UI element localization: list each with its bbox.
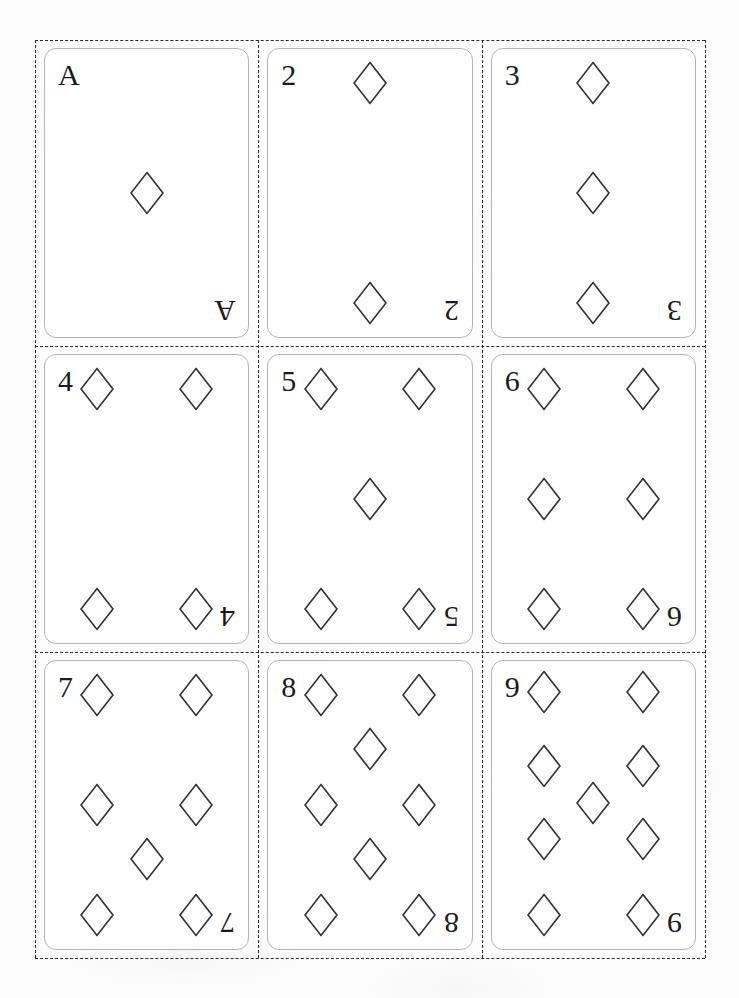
diamond-icon bbox=[402, 673, 436, 716]
diamond-icon bbox=[626, 818, 660, 861]
diamond-icon bbox=[80, 367, 114, 410]
diamond-icon bbox=[179, 784, 213, 827]
card-sheet-page: AA2233445566778899 bbox=[0, 0, 739, 998]
diamond-icon bbox=[179, 894, 213, 937]
playing-card-2-of-diamonds[interactable]: 22 bbox=[267, 48, 472, 338]
diamond-icon bbox=[80, 588, 114, 631]
playing-card-5-of-diamonds[interactable]: 55 bbox=[267, 354, 472, 644]
card-index-bottom-right: 6 bbox=[667, 602, 682, 632]
pip-field bbox=[516, 71, 671, 316]
pip-field bbox=[293, 377, 448, 622]
diamond-icon bbox=[626, 894, 660, 937]
diamond-icon bbox=[576, 172, 610, 215]
diamond-icon bbox=[353, 837, 387, 880]
card-cell: 22 bbox=[258, 40, 481, 346]
diamond-icon bbox=[626, 478, 660, 521]
card-cell: 55 bbox=[258, 346, 481, 652]
pip-field bbox=[516, 683, 671, 928]
diamond-icon bbox=[626, 588, 660, 631]
diamond-icon bbox=[527, 818, 561, 861]
diamond-icon bbox=[80, 673, 114, 716]
diamond-icon bbox=[179, 588, 213, 631]
playing-card-6-of-diamonds[interactable]: 66 bbox=[491, 354, 696, 644]
pip-field bbox=[293, 683, 448, 928]
diamond-icon bbox=[353, 478, 387, 521]
pip-field bbox=[69, 377, 224, 622]
diamond-icon bbox=[304, 588, 338, 631]
diamond-icon bbox=[353, 282, 387, 325]
card-index-bottom-right: 2 bbox=[444, 296, 459, 326]
card-index-bottom-right: 8 bbox=[444, 908, 459, 938]
diamond-icon bbox=[527, 744, 561, 787]
card-cell: 66 bbox=[482, 346, 705, 652]
pip-field bbox=[69, 683, 224, 928]
card-cell: 88 bbox=[258, 652, 481, 958]
diamond-icon bbox=[130, 837, 164, 880]
card-index-bottom-right: A bbox=[214, 296, 236, 326]
diamond-icon bbox=[527, 588, 561, 631]
diamond-icon bbox=[353, 61, 387, 104]
diamond-icon bbox=[527, 367, 561, 410]
pip-field bbox=[293, 71, 448, 316]
diamond-icon bbox=[576, 781, 610, 824]
card-index-bottom-right: 4 bbox=[220, 602, 235, 632]
playing-card-4-of-diamonds[interactable]: 44 bbox=[44, 354, 249, 644]
diamond-icon bbox=[576, 61, 610, 104]
diamond-icon bbox=[304, 673, 338, 716]
playing-card-7-of-diamonds[interactable]: 77 bbox=[44, 660, 249, 950]
diamond-icon bbox=[179, 673, 213, 716]
diamond-icon bbox=[626, 744, 660, 787]
cut-line-vertical-right bbox=[705, 40, 706, 958]
diamond-icon bbox=[527, 671, 561, 714]
diamond-icon bbox=[130, 172, 164, 215]
diamond-icon bbox=[80, 894, 114, 937]
diamond-icon bbox=[576, 282, 610, 325]
diamond-icon bbox=[402, 894, 436, 937]
card-grid: AA2233445566778899 bbox=[35, 40, 705, 958]
card-cell: 77 bbox=[35, 652, 258, 958]
diamond-icon bbox=[304, 367, 338, 410]
playing-card-9-of-diamonds[interactable]: 99 bbox=[491, 660, 696, 950]
playing-card-8-of-diamonds[interactable]: 88 bbox=[267, 660, 472, 950]
diamond-icon bbox=[527, 894, 561, 937]
diamond-icon bbox=[402, 588, 436, 631]
diamond-icon bbox=[626, 367, 660, 410]
playing-card-3-of-diamonds[interactable]: 33 bbox=[491, 48, 696, 338]
card-cell: AA bbox=[35, 40, 258, 346]
card-cell: 99 bbox=[482, 652, 705, 958]
card-index-bottom-right: 7 bbox=[220, 908, 235, 938]
diamond-icon bbox=[80, 784, 114, 827]
diamond-icon bbox=[626, 671, 660, 714]
diamond-icon bbox=[304, 894, 338, 937]
diamond-icon bbox=[402, 784, 436, 827]
cut-line-horizontal-bottom bbox=[35, 958, 705, 959]
pip-field bbox=[516, 377, 671, 622]
card-index-bottom-right: 3 bbox=[667, 296, 682, 326]
pip-field bbox=[69, 71, 224, 316]
diamond-icon bbox=[402, 367, 436, 410]
diamond-icon bbox=[527, 478, 561, 521]
card-cell: 44 bbox=[35, 346, 258, 652]
diamond-icon bbox=[304, 784, 338, 827]
card-index-bottom-right: 5 bbox=[444, 602, 459, 632]
card-index-bottom-right: 9 bbox=[667, 908, 682, 938]
playing-card-a-of-diamonds[interactable]: AA bbox=[44, 48, 249, 338]
card-cell: 33 bbox=[482, 40, 705, 346]
diamond-icon bbox=[353, 727, 387, 770]
diamond-icon bbox=[179, 367, 213, 410]
